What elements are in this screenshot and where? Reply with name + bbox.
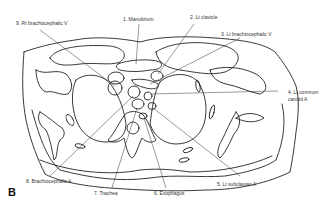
leader-lt-brachiocephalic-v [150, 38, 240, 84]
left-scapula [218, 112, 240, 158]
label-manubrium: 1. Manubrium [123, 16, 154, 22]
left-rib-section-lower [183, 146, 194, 153]
right-scapula [38, 112, 64, 160]
right-rib-section-lower [75, 143, 86, 149]
leader-trachea [112, 108, 137, 188]
vertebra-outline [108, 112, 156, 159]
right-lung [72, 75, 126, 142]
left-scapula-spine [236, 114, 264, 122]
left-rib-section-mid [208, 105, 215, 120]
leader-rt-brachiocephalic-v [40, 30, 115, 86]
left-lung [150, 75, 206, 145]
label-brachiocephalic-a: 8. Brachiocephalic A [26, 178, 71, 184]
left-upper-muscle-islands [210, 67, 266, 94]
label-lt-subclavian-a: 5. Lt subclavian A [217, 181, 256, 187]
label-lt-brachiocephalic-v: 3. Lt brachiocephalic V [221, 31, 272, 37]
label-lt-common-carotid-a-line1: 4. Lt common [288, 89, 318, 95]
label-trachea: 7. Trachea [94, 190, 118, 196]
label-rt-brachiocephalic-v: 9. Rt brachiocephalic V [16, 20, 67, 26]
right-upper-muscle-islands [36, 70, 72, 94]
label-lt-common-carotid-a-line2: carotid A [288, 96, 307, 102]
leader-manubrium [136, 24, 139, 64]
right-rib-section [64, 113, 75, 126]
panel-letter: B [8, 186, 16, 198]
right-pectoral-region [50, 46, 124, 66]
thorax-cross-section-diagram [0, 0, 336, 205]
vertebral-body [127, 122, 139, 134]
posterior-contour [40, 156, 272, 173]
leader-brachiocephalic-a [50, 96, 133, 176]
left-pectoral-region [156, 43, 238, 74]
left-clavicle-head [151, 71, 163, 81]
manubrium [116, 60, 161, 72]
trachea [132, 99, 144, 109]
brachiocephalic-artery [128, 86, 140, 98]
lt-common-carotid-artery [144, 92, 152, 100]
left-rib-section-low2 [179, 157, 190, 163]
label-lt-clavicle: 2. Lt clavicle [190, 14, 218, 20]
leader-lt-clavicle [158, 24, 194, 74]
label-esophagus: 6. Esophagus [154, 190, 185, 196]
